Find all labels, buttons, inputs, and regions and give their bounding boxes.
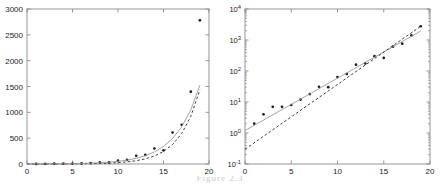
svg-text:500: 500 bbox=[10, 134, 24, 143]
svg-text:1500: 1500 bbox=[5, 83, 23, 92]
svg-text:104: 104 bbox=[229, 4, 241, 14]
svg-text:3000: 3000 bbox=[5, 5, 23, 14]
svg-text:103: 103 bbox=[229, 35, 241, 45]
svg-text:1000: 1000 bbox=[5, 108, 23, 117]
svg-text:0: 0 bbox=[25, 167, 30, 176]
figure-caption-text: Figure 2.3 bbox=[197, 176, 244, 184]
svg-text:15: 15 bbox=[379, 167, 388, 176]
svg-text:10: 10 bbox=[114, 167, 123, 176]
right-chart-svg: 0510152010-1100101102103104 bbox=[220, 0, 440, 176]
svg-text:100: 100 bbox=[229, 128, 241, 138]
svg-text:2000: 2000 bbox=[5, 57, 23, 66]
svg-text:20: 20 bbox=[205, 167, 214, 176]
left-chart-svg: 05101520050010001500200025003000 bbox=[0, 0, 220, 176]
figure-caption: Figure 2.3 bbox=[0, 176, 440, 188]
svg-text:20: 20 bbox=[426, 167, 435, 176]
right-chart-panel: 0510152010-1100101102103104 bbox=[220, 0, 440, 188]
svg-text:5: 5 bbox=[70, 167, 75, 176]
svg-text:101: 101 bbox=[229, 97, 241, 107]
left-chart-panel: 05101520050010001500200025003000 bbox=[0, 0, 220, 188]
svg-text:5: 5 bbox=[289, 167, 294, 176]
svg-text:102: 102 bbox=[229, 66, 241, 76]
svg-text:2500: 2500 bbox=[5, 31, 23, 40]
figure-container: 05101520050010001500200025003000 0510152… bbox=[0, 0, 440, 188]
svg-text:15: 15 bbox=[159, 167, 168, 176]
svg-text:0: 0 bbox=[19, 160, 24, 169]
svg-text:10-1: 10-1 bbox=[228, 159, 242, 169]
svg-text:10: 10 bbox=[333, 167, 342, 176]
svg-text:0: 0 bbox=[243, 167, 248, 176]
